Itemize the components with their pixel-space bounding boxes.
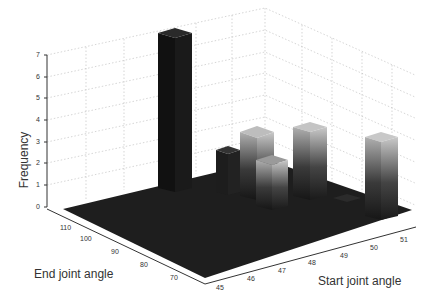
y-tick: 70 bbox=[170, 274, 178, 281]
bar bbox=[216, 146, 240, 195]
x-tick: 45 bbox=[216, 284, 224, 291]
z-tick: 3 bbox=[36, 138, 40, 145]
x-tick: 47 bbox=[278, 267, 286, 274]
x-tick: 49 bbox=[340, 252, 348, 259]
bar bbox=[365, 132, 398, 220]
x-tick: 48 bbox=[308, 259, 316, 266]
y-tick: 100 bbox=[80, 235, 92, 242]
bar bbox=[256, 155, 288, 210]
x-tick: 51 bbox=[400, 236, 408, 243]
z-tick: 4 bbox=[36, 116, 40, 123]
z-axis-label: Frequency bbox=[17, 132, 31, 189]
z-tick: 0 bbox=[36, 203, 40, 210]
z-tick: 7 bbox=[36, 51, 40, 58]
z-tick: 1 bbox=[36, 181, 40, 188]
z-tick: 2 bbox=[36, 159, 40, 166]
bar bbox=[293, 122, 327, 200]
x-tick: 50 bbox=[370, 244, 378, 251]
x-tick: 46 bbox=[247, 275, 255, 282]
x-axis-label: Start joint angle bbox=[318, 274, 402, 288]
z-axis: 0 1 2 3 4 5 6 7 Frequency bbox=[17, 51, 47, 210]
z-tick: 5 bbox=[36, 94, 40, 101]
bar3d-chart: 0 1 2 3 4 5 6 7 Frequency bbox=[0, 0, 443, 299]
y-tick: 110 bbox=[60, 224, 71, 231]
y-tick: 80 bbox=[140, 261, 148, 268]
y-tick: 90 bbox=[111, 248, 119, 255]
z-tick: 6 bbox=[36, 73, 40, 80]
y-axis-label: End joint angle bbox=[34, 267, 114, 281]
bar bbox=[158, 28, 192, 192]
